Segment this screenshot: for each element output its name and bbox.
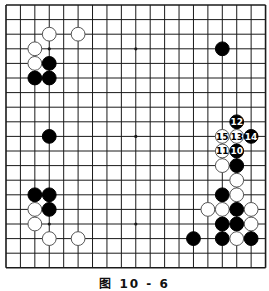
figure-caption: 图 10 - 6 bbox=[0, 274, 269, 291]
move-number: 12 bbox=[230, 117, 243, 127]
black-stone bbox=[215, 232, 229, 246]
black-stone bbox=[215, 217, 229, 231]
move-number: 13 bbox=[230, 132, 243, 142]
black-stone bbox=[28, 188, 42, 202]
black-stone bbox=[230, 203, 244, 217]
white-stone bbox=[71, 27, 85, 41]
black-stone bbox=[187, 232, 201, 246]
move-number: 10 bbox=[230, 146, 243, 156]
white-stone bbox=[201, 203, 215, 217]
black-stone bbox=[230, 159, 244, 173]
white-stone bbox=[230, 232, 244, 246]
white-stone bbox=[28, 42, 42, 56]
go-board: 121513141110 bbox=[0, 0, 269, 272]
white-stone bbox=[28, 217, 42, 231]
move-number: 14 bbox=[245, 132, 258, 142]
move-number: 11 bbox=[216, 146, 229, 156]
white-stone bbox=[28, 203, 42, 217]
star-point bbox=[48, 47, 51, 50]
black-stone bbox=[42, 188, 56, 202]
star-point bbox=[48, 222, 51, 225]
white-stone bbox=[244, 203, 258, 217]
white-stone-15: 15 bbox=[215, 130, 229, 144]
black-stone bbox=[215, 42, 229, 56]
black-stone bbox=[215, 188, 229, 202]
white-stone bbox=[42, 27, 56, 41]
move-number: 15 bbox=[216, 132, 229, 142]
white-stone bbox=[230, 173, 244, 187]
black-stone-10: 10 bbox=[230, 144, 244, 158]
white-stone bbox=[244, 217, 258, 231]
white-stone bbox=[71, 232, 85, 246]
black-stone bbox=[42, 130, 56, 144]
black-stone bbox=[28, 71, 42, 85]
black-stone-14: 14 bbox=[244, 130, 258, 144]
white-stone bbox=[42, 232, 56, 246]
white-stone bbox=[28, 57, 42, 71]
star-point bbox=[134, 47, 137, 50]
black-stone bbox=[42, 203, 56, 217]
black-stone bbox=[42, 57, 56, 71]
white-stone bbox=[215, 159, 229, 173]
white-stone-13: 13 bbox=[230, 130, 244, 144]
black-stone-12: 12 bbox=[230, 115, 244, 129]
white-stone bbox=[230, 188, 244, 202]
black-stone bbox=[42, 71, 56, 85]
star-point bbox=[134, 222, 137, 225]
star-point bbox=[134, 135, 137, 138]
white-stone bbox=[215, 203, 229, 217]
black-stone bbox=[244, 232, 258, 246]
black-stone bbox=[230, 217, 244, 231]
white-stone-11: 11 bbox=[215, 144, 229, 158]
